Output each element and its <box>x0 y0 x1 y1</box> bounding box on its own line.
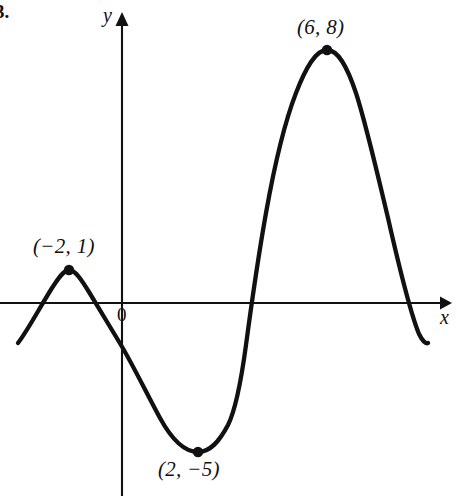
graph-figure: 3. y x 0 (−2, 1) (2, −5) (6, 8) <box>0 0 457 496</box>
point-label-local-max-left: (−2, 1) <box>33 236 95 257</box>
y-axis <box>116 12 129 496</box>
problem-number: 3. <box>0 2 9 21</box>
y-axis-arrowhead-icon <box>116 12 129 26</box>
point-dot-local-max-left <box>64 265 74 275</box>
point-label-local-max-right: (6, 8) <box>297 17 344 38</box>
x-axis-label: x <box>440 307 449 327</box>
y-axis-label: y <box>103 5 112 25</box>
origin-label: 0 <box>117 305 127 324</box>
point-dot-local-min <box>193 447 203 457</box>
point-label-local-min: (2, −5) <box>158 459 220 480</box>
x-axis <box>0 297 452 310</box>
point-dot-local-max-right <box>322 45 332 55</box>
